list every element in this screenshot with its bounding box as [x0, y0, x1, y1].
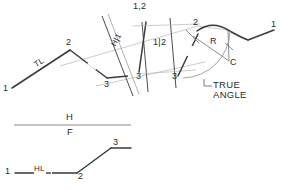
- curved-edge-2-to-1: [197, 25, 248, 40]
- bottom-segment-2-3: [77, 148, 111, 173]
- true-angle-leader: [204, 79, 212, 86]
- label-point-2-rotation: 2: [193, 18, 198, 27]
- label-point-2-bottomview: 2: [78, 172, 83, 181]
- label-true-angle-line2: ANGLE: [213, 90, 247, 100]
- break-mark-segment-23: [88, 63, 96, 69]
- break-gap-right: [188, 47, 192, 55]
- connector-bottom: [140, 70, 196, 74]
- label-center-c: C: [230, 58, 237, 67]
- tail-at-point-3-top: [107, 76, 128, 78]
- label-fold-h: H: [66, 112, 73, 122]
- label-point-1-rotation: 1: [271, 20, 276, 29]
- projection-ray-upper: [60, 26, 198, 66]
- connector-top: [133, 24, 200, 26]
- label-point-1-bottomview: 1: [5, 167, 10, 176]
- label-fold-f: F: [67, 127, 73, 137]
- top-view-polyline-123: [12, 50, 107, 88]
- projection-ray-lower: [96, 62, 205, 86]
- label-point-3-topview: 3: [104, 80, 109, 89]
- segment-to-point-1-right: [248, 30, 274, 40]
- label-point-3-center: 3: [136, 72, 141, 81]
- label-fold-line-12-right: 1|2: [153, 38, 166, 47]
- label-point-2-topview: 2: [66, 38, 71, 47]
- label-point-3-right: 3: [172, 72, 177, 81]
- technical-drawing-canvas: 1 2 3 TL H|1 1,2 1|2 3 3 2 R C 1 TRUE AN…: [0, 0, 286, 191]
- label-fold-line-12-top: 1,2: [133, 2, 146, 11]
- bottom-view-polyline-123: [15, 148, 131, 173]
- label-radius: R: [210, 37, 217, 46]
- label-horizontal-line-hl: HL: [34, 165, 45, 173]
- label-point-3-bottomview: 3: [113, 138, 118, 147]
- label-point-1-topview: 1: [3, 84, 8, 93]
- true-angle-arc: [183, 31, 230, 78]
